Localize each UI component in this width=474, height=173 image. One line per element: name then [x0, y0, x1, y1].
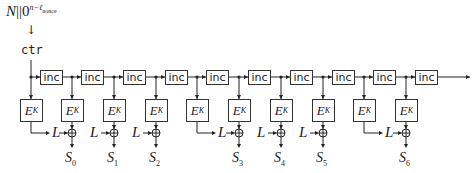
mask-L-label: L	[299, 124, 307, 141]
mask-L-label: L	[90, 124, 98, 141]
cipher-box-ek: EK	[61, 99, 84, 122]
inc-box: inc	[373, 70, 396, 85]
output-block-label: S2	[149, 150, 160, 168]
output-block-label: S5	[316, 150, 327, 168]
output-block-label: S4	[274, 150, 285, 168]
mask-L-label: L	[132, 124, 140, 141]
cipher-box-ek: EK	[20, 99, 43, 122]
cipher-box-ek: EK	[103, 99, 126, 122]
inc-box: inc	[40, 70, 63, 85]
mask-L-label: L	[385, 124, 393, 141]
inc-box: inc	[290, 70, 313, 85]
output-block-label: S6	[399, 150, 410, 168]
output-block-label: S3	[232, 150, 243, 168]
inc-box: inc	[123, 70, 146, 85]
mask-L-label: L	[257, 124, 265, 141]
down-arrow-icon: ↓	[26, 23, 36, 37]
cipher-box-ek: EK	[270, 99, 293, 122]
output-block-label: S0	[65, 150, 76, 168]
inc-box: inc	[332, 70, 355, 85]
cipher-box-ek: EK	[145, 99, 168, 122]
mask-L-label: L	[52, 124, 60, 141]
output-block-label: S1	[107, 150, 118, 168]
diagram-lines	[0, 0, 474, 173]
mask-L-label: L	[218, 124, 226, 141]
nonce-input-label: N||0n−ℓnonce	[6, 3, 57, 20]
counter-label: ctr	[21, 43, 43, 57]
inc-box: inc	[81, 70, 104, 85]
cipher-box-ek: EK	[186, 99, 209, 122]
cipher-box-ek: EK	[395, 99, 418, 122]
cipher-box-ek: EK	[353, 99, 376, 122]
inc-box: inc	[415, 70, 438, 85]
cipher-box-ek: EK	[312, 99, 335, 122]
inc-box: inc	[165, 70, 188, 85]
inc-box: inc	[206, 70, 229, 85]
inc-box: inc	[248, 70, 271, 85]
cipher-box-ek: EK	[228, 99, 251, 122]
